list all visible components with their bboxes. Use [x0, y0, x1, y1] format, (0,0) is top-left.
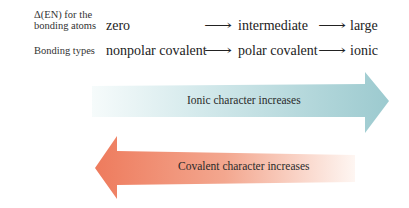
ionic-arrow-label: Ionic character increases [187, 94, 301, 106]
covalent-arrow-label: Covalent character increases [178, 160, 310, 172]
